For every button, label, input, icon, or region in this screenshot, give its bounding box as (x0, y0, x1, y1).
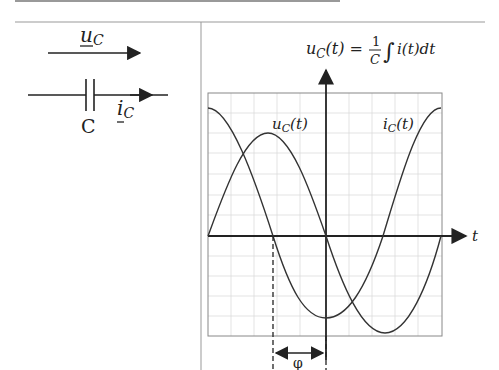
current-label: iC (117, 96, 134, 121)
curve-u-c-label: uC(t) (272, 115, 308, 135)
formula-numerator: 1 (372, 34, 380, 49)
formula: uC(t) = 1 C ∫ i(t)dt (306, 34, 436, 67)
capacitor-diagram: uC iC C uC(t) = 1 C ∫ i(t)dt t uC(t) iC(… (0, 0, 499, 370)
x-axis-label: t (472, 227, 479, 245)
capacitor-label: C (81, 115, 96, 137)
formula-integrand: i(t)dt (397, 40, 436, 58)
phase-label: φ (293, 355, 303, 370)
voltage-label: uC (80, 23, 104, 48)
circuit-schematic (28, 53, 168, 111)
curve-i-c (208, 108, 441, 318)
integral-sign: ∫ (383, 39, 395, 64)
formula-denominator: C (370, 52, 380, 67)
formula-lhs: uC(t) = (306, 39, 363, 61)
curve-i-c-label: iC(t) (383, 115, 414, 135)
